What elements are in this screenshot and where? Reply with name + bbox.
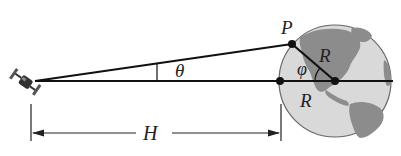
point-P xyxy=(288,40,296,48)
point-center xyxy=(331,77,339,85)
point-surface xyxy=(276,77,284,85)
label-H: H xyxy=(142,122,159,144)
label-phi: φ xyxy=(297,59,307,79)
label-P: P xyxy=(280,17,293,38)
line-of-sight-to-P xyxy=(35,44,292,81)
label-R-upper: R xyxy=(318,45,331,66)
label-theta: θ xyxy=(175,60,184,81)
satellite-earth-diagram: θ P R φ R H xyxy=(0,0,401,156)
label-R-lower: R xyxy=(299,90,312,111)
